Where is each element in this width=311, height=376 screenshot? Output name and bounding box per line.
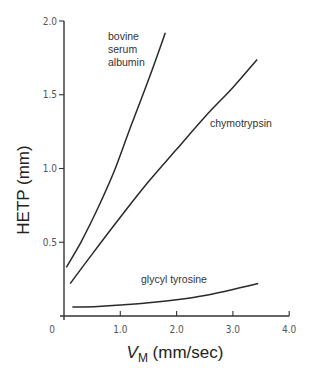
x-axis-title-subscript: M <box>138 351 148 365</box>
x-tick-label: 3.0 <box>226 324 241 335</box>
y-axis-title: HETP (mm) <box>14 145 33 234</box>
y-tick-label: 1.5 <box>43 89 57 100</box>
x-tick-label: 1.0 <box>113 324 128 335</box>
chymotrypsin-curve <box>70 59 257 283</box>
y-tick-label: 0.5 <box>43 237 57 248</box>
axis-ticks: 0.51.01.52.001.02.03.04.0 <box>43 16 297 336</box>
y-tick-label: 1.0 <box>43 163 58 174</box>
chymotrypsin-label: chymotrypsin <box>210 117 272 129</box>
x-tick-label: 4.0 <box>282 324 297 335</box>
curve-labels: bovineserumalbuminchymotrypsinglycyl tyr… <box>108 30 272 285</box>
x-tick-label: 2.0 <box>169 324 184 335</box>
y-tick-label: 2.0 <box>43 16 58 27</box>
glycyl-tyrosine-curve <box>72 284 258 308</box>
x-axis-title: VM (mm/sec) <box>127 343 224 365</box>
bovine-serum-albumin-label: bovineserumalbumin <box>108 30 145 68</box>
data-curves <box>66 33 258 307</box>
glycyl-tyrosine-label: glycyl tyrosine <box>141 273 207 285</box>
hetp-vs-velocity-chart: 0.51.01.52.001.02.03.04.0 bovineserumalb… <box>0 0 311 376</box>
x-axis-title-unit: (mm/sec) <box>148 343 224 362</box>
x-tick-label: 0 <box>49 324 55 335</box>
